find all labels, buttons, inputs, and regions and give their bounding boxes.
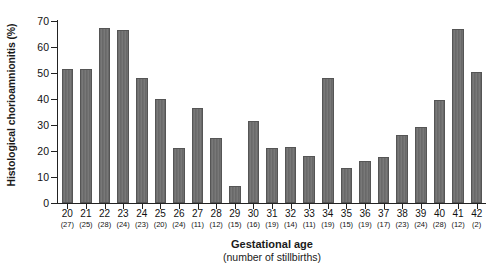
x-axis-label-age: 41 bbox=[449, 209, 468, 220]
bar bbox=[62, 69, 74, 203]
x-axis-label-count: (2) bbox=[467, 221, 486, 229]
x-axis-label-group: 21(25) bbox=[77, 209, 96, 228]
bar bbox=[285, 147, 297, 203]
bar bbox=[341, 168, 353, 203]
x-axis-label-count: (24) bbox=[114, 221, 133, 229]
x-axis-label-group: 26(24) bbox=[170, 209, 189, 228]
x-axis-label-age: 22 bbox=[95, 209, 114, 220]
x-axis-label-count: (16) bbox=[244, 221, 263, 229]
bar bbox=[192, 108, 204, 203]
x-axis-label-age: 29 bbox=[225, 209, 244, 220]
y-axis-tick-label: 10 bbox=[3, 171, 49, 183]
x-axis-label-count: (12) bbox=[449, 221, 468, 229]
x-axis-label-group: 28(12) bbox=[207, 209, 226, 228]
x-axis-label-count: (24) bbox=[170, 221, 189, 229]
bar bbox=[378, 157, 390, 203]
x-axis-label-count: (28) bbox=[430, 221, 449, 229]
x-axis-label-count: (14) bbox=[281, 221, 300, 229]
x-axis-label-age: 20 bbox=[58, 209, 77, 220]
bar bbox=[452, 29, 464, 203]
x-axis-label-count: (28) bbox=[95, 221, 114, 229]
x-axis-title-sub: (number of stillbirths) bbox=[58, 251, 486, 263]
x-axis-label-count: (24) bbox=[412, 221, 431, 229]
x-axis-label-group: 31(19) bbox=[263, 209, 282, 228]
x-axis-label-count: (23) bbox=[132, 221, 151, 229]
x-axis-label-count: (15) bbox=[337, 221, 356, 229]
y-axis-tick-label-wrap: 70 bbox=[0, 21, 49, 22]
y-axis-tick bbox=[51, 73, 57, 74]
x-axis-label-count: (19) bbox=[319, 221, 338, 229]
x-axis-label-count: (20) bbox=[151, 221, 170, 229]
x-axis-label-group: 35(15) bbox=[337, 209, 356, 228]
y-axis-tick-label: 20 bbox=[3, 145, 49, 157]
x-axis-title-main: Gestational age bbox=[58, 238, 486, 250]
y-axis-tick-label: 60 bbox=[3, 41, 49, 53]
x-axis-label-group: 36(19) bbox=[356, 209, 375, 228]
x-axis-label-group: 37(17) bbox=[374, 209, 393, 228]
x-axis-label-age: 35 bbox=[337, 209, 356, 220]
y-axis-tick bbox=[51, 21, 57, 22]
x-axis-label-group: 38(23) bbox=[393, 209, 412, 228]
x-axis-label-count: (19) bbox=[356, 221, 375, 229]
x-axis-label-count: (12) bbox=[207, 221, 226, 229]
x-axis-label-group: 29(15) bbox=[225, 209, 244, 228]
x-axis-label-age: 37 bbox=[374, 209, 393, 220]
y-axis-tick-label-wrap: 50 bbox=[0, 73, 49, 74]
x-axis-title: Gestational age (number of stillbirths) bbox=[58, 238, 486, 263]
bar bbox=[80, 69, 92, 203]
x-axis-label-age: 25 bbox=[151, 209, 170, 220]
x-axis-label-age: 39 bbox=[412, 209, 431, 220]
bar bbox=[471, 72, 483, 203]
y-axis-tick bbox=[51, 99, 57, 100]
y-axis-tick-label: 0 bbox=[3, 197, 49, 209]
x-axis-labels: 20(27)21(25)22(28)23(24)24(23)25(20)26(2… bbox=[58, 209, 486, 235]
x-axis-label-age: 21 bbox=[77, 209, 96, 220]
y-axis-tick-label-wrap: 30 bbox=[0, 125, 49, 126]
x-axis-label-group: 32(14) bbox=[281, 209, 300, 228]
x-axis-label-age: 26 bbox=[170, 209, 189, 220]
y-axis-tick-label: 70 bbox=[3, 15, 49, 27]
y-axis-tick bbox=[51, 151, 57, 152]
y-axis-tick bbox=[51, 177, 57, 178]
x-axis-label-count: (27) bbox=[58, 221, 77, 229]
bar bbox=[117, 30, 129, 203]
x-axis-label-age: 28 bbox=[207, 209, 226, 220]
x-axis-label-count: (11) bbox=[300, 221, 319, 229]
bars-layer bbox=[58, 21, 486, 203]
bar bbox=[210, 138, 222, 203]
x-axis-label-age: 36 bbox=[356, 209, 375, 220]
x-axis-label-group: 20(27) bbox=[58, 209, 77, 228]
y-axis-tick-label-wrap: 60 bbox=[0, 47, 49, 48]
x-axis-label-age: 31 bbox=[263, 209, 282, 220]
x-axis-label-age: 42 bbox=[467, 209, 486, 220]
bar bbox=[434, 100, 446, 203]
x-axis-label-age: 34 bbox=[319, 209, 338, 220]
x-axis-label-count: (17) bbox=[374, 221, 393, 229]
chart-figure: Histological chorioamnionitis (%) 010203… bbox=[0, 0, 498, 276]
x-axis-label-group: 34(19) bbox=[319, 209, 338, 228]
bar bbox=[136, 78, 148, 203]
y-axis-tick-label-wrap: 10 bbox=[0, 177, 49, 178]
y-axis-tick-label-wrap: 20 bbox=[0, 151, 49, 152]
x-axis-label-group: 41(12) bbox=[449, 209, 468, 228]
x-axis-label-age: 24 bbox=[132, 209, 151, 220]
x-axis-label-group: 24(23) bbox=[132, 209, 151, 228]
x-axis-label-count: (23) bbox=[393, 221, 412, 229]
y-axis-tick bbox=[51, 203, 57, 204]
bar bbox=[359, 161, 371, 203]
x-axis-label-age: 33 bbox=[300, 209, 319, 220]
bar bbox=[303, 156, 315, 203]
x-axis-label-count: (15) bbox=[225, 221, 244, 229]
bar bbox=[173, 148, 185, 203]
x-axis-label-group: 23(24) bbox=[114, 209, 133, 228]
y-axis-tick bbox=[51, 125, 57, 126]
bar bbox=[99, 28, 111, 204]
bar bbox=[155, 99, 167, 203]
x-axis-label-age: 30 bbox=[244, 209, 263, 220]
bar bbox=[229, 186, 241, 203]
x-axis-label-group: 27(11) bbox=[188, 209, 207, 228]
bar bbox=[415, 127, 427, 203]
x-axis-label-count: (25) bbox=[77, 221, 96, 229]
y-axis-tick-label: 40 bbox=[3, 93, 49, 105]
y-axis-tick-label-wrap: 40 bbox=[0, 99, 49, 100]
